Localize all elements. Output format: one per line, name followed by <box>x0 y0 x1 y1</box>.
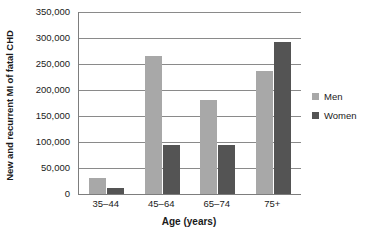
x-axis-tick-label: 45–64 <box>134 198 190 209</box>
bar-group <box>190 12 246 194</box>
bar-women-1 <box>163 145 180 194</box>
y-axis-tick-label: 350,000 <box>14 7 70 17</box>
legend-item-men: Men <box>312 92 357 102</box>
bar-group <box>79 12 135 194</box>
x-axis-tick-labels: 35–4445–6465–7475+ <box>78 198 300 209</box>
legend-swatch-women-icon <box>312 112 319 119</box>
y-axis-tick-label: 150,000 <box>14 111 70 121</box>
bar-men-3 <box>256 71 273 194</box>
legend-item-women: Women <box>312 111 357 121</box>
bar-group <box>246 12 302 194</box>
bar-women-3 <box>274 42 291 194</box>
y-axis-tick-label: 100,000 <box>14 137 70 147</box>
bar-men-0 <box>89 178 106 194</box>
y-axis-tick-label: 300,000 <box>14 33 70 43</box>
x-axis-tick-label: 65–74 <box>189 198 245 209</box>
bar-women-0 <box>107 188 124 194</box>
legend-label-men: Men <box>324 92 342 102</box>
bar-men-2 <box>200 100 217 194</box>
legend: Men Women <box>312 92 357 129</box>
y-axis-tick-labels: 050,000100,000150,000200,000250,000300,0… <box>18 12 74 194</box>
bars-layer <box>79 12 301 194</box>
y-axis-tick-label: 0 <box>14 189 70 199</box>
y-axis-tick-label: 200,000 <box>14 85 70 95</box>
x-axis-tick-label: 35–44 <box>78 198 134 209</box>
y-axis-title-text: New and recurrent MI of fatal CHD <box>4 30 15 180</box>
legend-label-women: Women <box>324 111 357 121</box>
plot-area <box>78 12 301 195</box>
bar-chart: New and recurrent MI of fatal CHD 050,00… <box>0 0 370 252</box>
x-axis-tick-label: 75+ <box>245 198 301 209</box>
legend-swatch-men-icon <box>312 93 319 100</box>
bar-group <box>135 12 191 194</box>
y-axis-tick-label: 250,000 <box>14 59 70 69</box>
y-axis-tick-label: 50,000 <box>14 163 70 173</box>
bar-women-2 <box>218 145 235 194</box>
y-axis-title: New and recurrent MI of fatal CHD <box>0 0 18 210</box>
x-axis-title: Age (years) <box>78 216 300 227</box>
bar-men-1 <box>145 56 162 194</box>
